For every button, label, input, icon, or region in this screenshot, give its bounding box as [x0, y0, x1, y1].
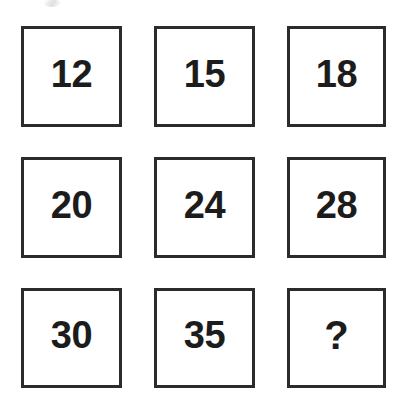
- cell-value: 35: [184, 316, 225, 354]
- puzzle-canvas: 12 15 18 20 24 28 30 35 ?: [0, 0, 404, 409]
- cell-value: 18: [316, 55, 357, 93]
- cell-value: 30: [51, 316, 92, 354]
- top-edge-artifact: [44, 0, 60, 7]
- grid-cell[interactable]: 12: [21, 26, 122, 127]
- grid-cell[interactable]: 18: [287, 26, 386, 127]
- cell-value: 28: [316, 186, 357, 224]
- grid-cell[interactable]: 30: [21, 288, 122, 388]
- grid-cell[interactable]: 28: [287, 157, 386, 258]
- cell-value-unknown: ?: [324, 315, 348, 355]
- cell-value: 15: [184, 55, 225, 93]
- grid-cell[interactable]: 20: [21, 157, 122, 258]
- grid-cell[interactable]: 24: [154, 157, 255, 258]
- cell-value: 24: [184, 186, 225, 224]
- cell-value: 20: [51, 186, 92, 224]
- cell-value: 12: [51, 55, 92, 93]
- grid-cell[interactable]: 15: [154, 26, 255, 127]
- grid-cell[interactable]: 35: [154, 288, 255, 388]
- grid-cell-unknown[interactable]: ?: [287, 288, 386, 388]
- number-grid: 12 15 18 20 24 28 30 35 ?: [21, 26, 385, 388]
